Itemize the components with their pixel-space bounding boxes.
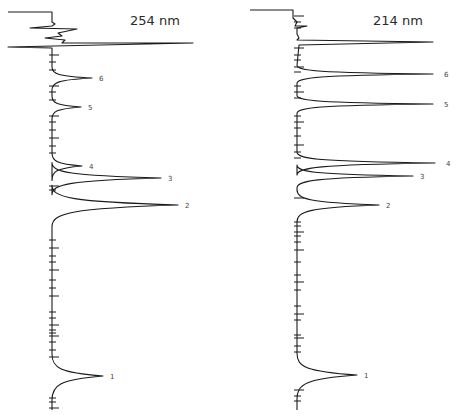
peak-label: 5 (444, 101, 448, 109)
peak-label: 4 (89, 163, 94, 171)
panel-title-214nm: 214 nm (373, 13, 423, 28)
peak-label: 3 (168, 175, 172, 183)
ticks-214nm (294, 16, 304, 401)
panel-254nm: 654321 254 nm (8, 12, 193, 410)
peak-label: 5 (88, 104, 92, 112)
peak-label: 1 (364, 372, 368, 380)
trace-214nm (250, 10, 435, 410)
panel-title-254nm: 254 nm (130, 13, 180, 28)
peak-label: 3 (420, 173, 424, 181)
ticks-254nm (49, 55, 59, 408)
peak-label: 2 (185, 202, 189, 210)
peak-label: 6 (99, 75, 104, 83)
peak-label: 1 (110, 373, 114, 381)
peak-label: 6 (444, 71, 449, 79)
peak-label: 4 (446, 160, 451, 168)
trace-254nm (8, 12, 193, 410)
panel-214nm: 654321 214 nm (250, 10, 451, 410)
peak-labels-254nm: 654321 (88, 75, 189, 381)
peak-labels-214nm: 654321 (364, 71, 451, 380)
chromatogram-figure: 654321 254 nm 654321 214 nm (0, 0, 458, 419)
peak-label: 2 (386, 202, 390, 210)
